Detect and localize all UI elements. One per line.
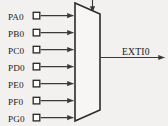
port-terminal-icon-pe0 [33, 80, 40, 87]
input-label-pg0: PG0 [8, 114, 25, 124]
input-row-pd0: PD0 [8, 63, 73, 73]
input-label-pf0: PF0 [8, 97, 23, 107]
port-terminal-icon-pb0 [33, 29, 40, 36]
port-terminal-icon-pd0 [33, 63, 40, 70]
input-row-pa0: PA0 [8, 12, 73, 22]
diagram-canvas: PA0 PB0 PC0 PD0 PE0 [0, 0, 168, 126]
port-terminal-icon-pc0 [33, 46, 40, 53]
port-terminal-icon-pa0 [33, 12, 40, 19]
input-row-pe0: PE0 [8, 80, 73, 90]
input-row-pg0: PG0 [8, 114, 73, 124]
input-label-pc0: PC0 [8, 46, 24, 56]
input-row-pc0: PC0 [8, 46, 73, 56]
multiplexer-block [75, 3, 100, 121]
input-label-pd0: PD0 [8, 63, 25, 73]
input-row-pb0: PB0 [8, 29, 73, 39]
output-label-exti0: EXTI0 [122, 46, 150, 57]
input-label-pb0: PB0 [8, 29, 24, 39]
input-label-pe0: PE0 [8, 80, 24, 90]
port-terminal-icon-pg0 [33, 114, 40, 121]
port-terminal-icon-pf0 [33, 97, 40, 104]
input-row-pf0: PF0 [8, 97, 73, 107]
input-label-pa0: PA0 [8, 12, 24, 22]
exti0-mux-diagram: PA0 PB0 PC0 PD0 PE0 [0, 0, 168, 126]
